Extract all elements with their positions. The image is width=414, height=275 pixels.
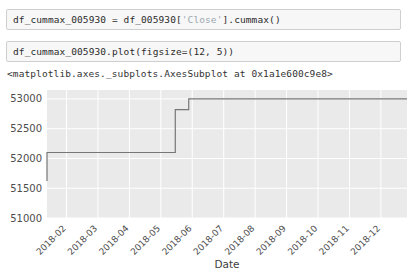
y-tick-label: 51000 <box>10 213 42 224</box>
y-tick-label: 52500 <box>10 123 42 134</box>
cell-output-text: <matplotlib.axes._subplots.AxesSubplot a… <box>7 67 407 80</box>
x-tick-label: 2018-08 <box>223 223 257 257</box>
code-string-literal: 'Close' <box>182 14 223 25</box>
x-axis-title: Date <box>214 258 239 270</box>
x-tick-label: 2018-11 <box>317 223 351 257</box>
x-tick-label: 2018-05 <box>129 223 163 257</box>
x-tick-label: 2018-10 <box>286 223 320 257</box>
x-tick-label: 2018-03 <box>66 223 100 257</box>
code-text: df_cummax_005930.plot(figsize=(12, 5)) <box>13 46 234 57</box>
code-text-prefix: df_cummax_005930 = df_005930[ <box>13 14 182 25</box>
x-tick-label: 2018-04 <box>97 223 131 257</box>
matplotlib-figure: 5100051500520005250053000 2018-022018-03… <box>0 84 414 275</box>
y-tick-label: 53000 <box>10 93 42 104</box>
y-axis-tick-labels: 5100051500520005250053000 <box>10 93 42 223</box>
code-text-suffix: ].cummax() <box>223 14 281 25</box>
axes-background <box>47 90 407 218</box>
jupyter-notebook: df_cummax_005930 = df_005930['Close'].cu… <box>0 0 414 275</box>
x-tick-label: 2018-09 <box>254 223 288 257</box>
x-tick-label: 2018-06 <box>160 223 194 257</box>
code-cell-input-1[interactable]: df_cummax_005930 = df_005930['Close'].cu… <box>6 9 401 30</box>
y-tick-label: 52000 <box>10 153 42 164</box>
x-tick-label: 2018-02 <box>34 223 68 257</box>
line-chart: 5100051500520005250053000 2018-022018-03… <box>0 84 414 275</box>
y-tick-label: 51500 <box>10 183 42 194</box>
x-axis-tick-labels: 2018-022018-032018-042018-052018-062018-… <box>34 223 382 257</box>
x-tick-label: 2018-12 <box>349 223 383 257</box>
code-cell-input-2[interactable]: df_cummax_005930.plot(figsize=(12, 5)) <box>6 41 401 62</box>
x-tick-label: 2018-07 <box>191 223 225 257</box>
